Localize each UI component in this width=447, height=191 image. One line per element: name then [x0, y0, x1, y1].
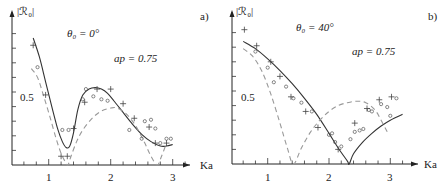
angle-annotation-b: θ₀ = 40° [296, 21, 334, 33]
y-axis-label-a: |ℛ₀| [17, 5, 34, 17]
x-tick-label-a-2: 2 [108, 171, 114, 183]
angle-annotation-a: θ₀ = 0° [67, 27, 100, 39]
panel-label-a: a) [200, 10, 209, 23]
y-axis-label-b: |ℛ₀| [236, 5, 253, 17]
x-tick-label-b-1: 1 [265, 171, 271, 183]
x-axis-label-a: Ka [200, 159, 213, 171]
x-axis-label-b: Ka [424, 158, 437, 170]
y-tick-label-b: 0.5 [241, 91, 255, 103]
x-tick-label-a-1: 1 [46, 171, 52, 183]
panel-label-b: b) [428, 10, 438, 23]
x-tick-label-b-2: 2 [326, 171, 332, 183]
param-annotation-a: ap = 0.75 [114, 52, 158, 64]
y-tick-label-a: 0.5 [20, 91, 34, 103]
figure: |ℛ₀| a) θ₀ = 0° ap = 0.75 0.5 1 2 3 Ka |… [0, 0, 447, 191]
x-tick-label-b-3: 3 [387, 171, 393, 183]
x-tick-label-a-3: 3 [170, 171, 176, 183]
param-annotation-b: ap = 0.75 [352, 45, 396, 57]
labels-layer: |ℛ₀| a) θ₀ = 0° ap = 0.75 0.5 1 2 3 Ka |… [0, 0, 447, 191]
